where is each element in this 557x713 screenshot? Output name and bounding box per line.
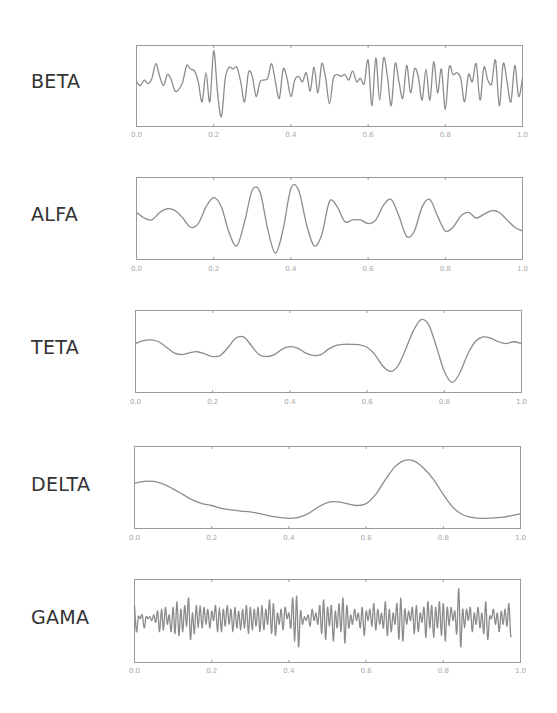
x-tick-label: 0.6 <box>361 667 373 675</box>
x-tick-label: 0.8 <box>439 398 450 406</box>
plot-frame <box>137 178 523 260</box>
waveform-line <box>135 460 521 519</box>
x-tick-label: 0.8 <box>438 667 449 675</box>
waveform-line <box>135 589 511 647</box>
x-tick-label: 1.0 <box>515 667 526 675</box>
plot-teta: 0.00.20.40.60.81.0 <box>130 311 527 407</box>
x-tick-label: 1.0 <box>516 398 527 406</box>
plot-delta: 0.00.20.40.60.81.0 <box>129 447 526 543</box>
x-tick-label: 0.8 <box>440 131 451 139</box>
x-tick-label: 0.2 <box>208 131 219 139</box>
plot-gama: 0.00.20.40.60.81.0 <box>129 580 526 676</box>
x-tick-label: 0.2 <box>206 667 217 675</box>
plot-frame <box>135 447 521 529</box>
x-tick-label: 0.0 <box>131 265 142 273</box>
x-tick-label: 0.4 <box>284 398 296 406</box>
x-tick-label: 0.6 <box>362 398 374 406</box>
x-tick-label: 0.6 <box>363 131 375 139</box>
x-tick-label: 0.4 <box>285 131 297 139</box>
x-tick-label: 0.6 <box>361 534 373 542</box>
x-tick-label: 0.2 <box>207 398 218 406</box>
x-tick-label: 1.0 <box>517 265 528 273</box>
waveform-plots: 0.00.20.40.60.81.0 0.00.20.40.60.81.0 0.… <box>0 0 557 713</box>
x-tick-label: 0.8 <box>438 534 449 542</box>
plot-frame <box>137 46 523 127</box>
x-tick-label: 0.4 <box>283 667 295 675</box>
x-tick-label: 0.0 <box>129 667 140 675</box>
waveform-line <box>136 319 522 382</box>
waveform-line <box>137 185 523 254</box>
x-tick-label: 0.4 <box>285 265 297 273</box>
x-tick-label: 1.0 <box>515 534 526 542</box>
x-tick-label: 0.2 <box>208 265 219 273</box>
x-tick-label: 0.6 <box>363 265 375 273</box>
waveform-line <box>137 51 523 117</box>
x-tick-label: 0.8 <box>440 265 451 273</box>
x-tick-label: 0.2 <box>206 534 217 542</box>
plot-alfa: 0.00.20.40.60.81.0 <box>131 178 528 274</box>
x-tick-label: 0.4 <box>283 534 295 542</box>
x-tick-label: 1.0 <box>517 131 528 139</box>
x-tick-label: 0.0 <box>131 131 142 139</box>
x-tick-label: 0.0 <box>129 534 140 542</box>
x-tick-label: 0.0 <box>130 398 141 406</box>
plot-beta: 0.00.20.40.60.81.0 <box>131 46 528 140</box>
